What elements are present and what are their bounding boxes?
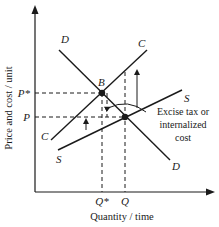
diagram-canvas: D D S S C C B P* P Q* Q Quantity / time … — [0, 0, 219, 227]
label-s-bottom: S — [56, 153, 62, 165]
excise-tax-annotation: Excise tax or internalized cost — [157, 106, 210, 143]
label-point-b: B — [98, 76, 105, 88]
label-s-top: S — [184, 92, 190, 104]
label-c-top: C — [138, 37, 146, 49]
x-axis-arrow-icon — [206, 189, 215, 196]
tick-p-star: P* — [17, 87, 31, 99]
tick-q-star: Q* — [95, 195, 109, 207]
label-c-bottom: C — [41, 130, 49, 142]
point-market-equilibrium — [122, 114, 128, 120]
annotation-line-1: Excise tax or — [157, 106, 210, 117]
annotation-line-2: internalized — [159, 119, 206, 130]
y-axis — [32, 5, 39, 192]
annotation-line-3: cost — [175, 132, 191, 143]
x-axis-title: Quantity / time — [90, 211, 154, 222]
cost-curve-c — [51, 50, 147, 140]
point-b — [99, 90, 105, 96]
tick-q: Q — [121, 195, 129, 207]
y-axis-arrow-icon — [32, 5, 39, 14]
tick-p: P — [22, 111, 30, 123]
label-d-bottom: D — [171, 160, 180, 172]
label-d-top: D — [60, 33, 69, 45]
y-axis-title: Price and cost / unit — [3, 66, 14, 149]
guide-lines — [35, 72, 125, 192]
